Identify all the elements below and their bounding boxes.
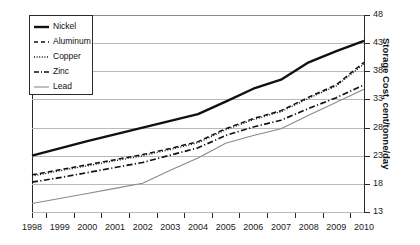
x-tick-mark [46, 213, 47, 218]
legend-item-lead: Lead [33, 79, 92, 94]
lead-line-swatch-icon [33, 82, 50, 92]
gridline [32, 128, 364, 129]
x-tick-mark [32, 213, 33, 218]
x-tick-mark [212, 213, 213, 218]
legend-label-zinc: Zinc [53, 67, 69, 76]
x-tick-mark [350, 213, 351, 218]
copper-line-swatch-icon [33, 52, 50, 62]
legend-label-copper: Copper [53, 52, 81, 61]
legend-label-aluminum: Aluminum [53, 37, 91, 46]
legend-item-zinc: Zinc [33, 64, 92, 79]
legend-label-lead: Lead [53, 82, 72, 91]
gridline [32, 184, 364, 185]
x-tick-label: 2010 [348, 222, 380, 232]
aluminum-line-swatch-icon [33, 37, 50, 47]
legend-item-nickel: Nickel [33, 19, 92, 34]
y-tick-label: 13 [373, 207, 383, 216]
legend-item-aluminum: Aluminum [33, 34, 92, 49]
y-tick-mark [365, 184, 370, 185]
legend-item-copper: Copper [33, 49, 92, 64]
y-axis-title: Storage Cost, cent/tonne/day [381, 38, 392, 188]
y-tick-mark [365, 156, 370, 157]
storage-cost-line-chart: 1318232833384348 19981999200020012002200… [0, 0, 420, 245]
x-tick-mark [323, 213, 324, 218]
y-tick-mark [365, 128, 370, 129]
x-tick-mark [74, 213, 75, 218]
y-tick-mark [365, 15, 370, 16]
y-tick-mark [365, 99, 370, 100]
y-tick-mark [365, 43, 370, 44]
x-tick-mark [267, 213, 268, 218]
x-tick-mark [129, 213, 130, 218]
x-tick-mark [295, 213, 296, 218]
gridline [32, 156, 364, 157]
y-tick-mark [365, 212, 370, 213]
gridline [32, 99, 364, 100]
y-tick-mark [365, 71, 370, 72]
legend-label-nickel: Nickel [53, 22, 76, 31]
x-tick-mark [239, 213, 240, 218]
legend: Nickel Aluminum Copper Zinc Lead [29, 15, 93, 95]
gridline [32, 212, 364, 213]
x-tick-mark [157, 213, 158, 218]
nickel-line-swatch-icon [33, 22, 50, 32]
x-tick-mark [184, 213, 185, 218]
y-tick-label: 48 [373, 10, 383, 19]
x-tick-mark [101, 213, 102, 218]
zinc-line-swatch-icon [33, 67, 50, 77]
